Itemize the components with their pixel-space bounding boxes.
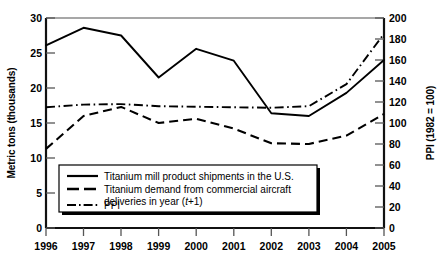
svg-text:120: 120 <box>389 96 407 108</box>
legend-label-ppi: PPI <box>104 200 120 211</box>
svg-text:0: 0 <box>36 222 42 234</box>
svg-text:1996: 1996 <box>34 240 58 252</box>
svg-text:100: 100 <box>389 117 407 129</box>
legend: Titanium mill product shipments in the U… <box>59 165 320 215</box>
chart-figure: 0 5 10 15 20 25 30 0 20 40 60 80 100 120… <box>0 0 444 266</box>
svg-text:1999: 1999 <box>147 240 171 252</box>
svg-text:200: 200 <box>389 12 407 24</box>
svg-text:80: 80 <box>389 138 401 150</box>
y-axis-title: Metric tons (thousands) <box>6 67 17 178</box>
chart-background <box>0 0 444 266</box>
svg-text:2000: 2000 <box>185 240 209 252</box>
svg-text:2003: 2003 <box>297 240 321 252</box>
svg-text:2004: 2004 <box>335 240 359 252</box>
svg-text:180: 180 <box>389 33 407 45</box>
svg-text:20: 20 <box>30 82 42 94</box>
svg-text:1998: 1998 <box>109 240 133 252</box>
svg-text:20: 20 <box>389 201 401 213</box>
svg-text:2001: 2001 <box>222 240 246 252</box>
svg-text:10: 10 <box>30 152 42 164</box>
svg-text:1997: 1997 <box>72 240 96 252</box>
line-chart: 0 5 10 15 20 25 30 0 20 40 60 80 100 120… <box>0 0 444 266</box>
svg-text:40: 40 <box>389 180 401 192</box>
svg-text:2002: 2002 <box>260 240 284 252</box>
svg-text:160: 160 <box>389 54 407 66</box>
svg-text:15: 15 <box>30 117 42 129</box>
svg-text:140: 140 <box>389 75 407 87</box>
svg-text:30: 30 <box>30 12 42 24</box>
svg-text:25: 25 <box>30 47 42 59</box>
y2-axis-title: PPI (1982 = 100) <box>425 86 436 160</box>
svg-text:0: 0 <box>389 222 395 234</box>
svg-text:60: 60 <box>389 159 401 171</box>
legend-label-aircraft-demand: Titanium demand from commercial aircraft <box>104 184 291 195</box>
legend-label-shipments: Titanium mill product shipments in the U… <box>104 171 294 182</box>
svg-text:5: 5 <box>36 187 42 199</box>
svg-text:2005: 2005 <box>372 240 396 252</box>
